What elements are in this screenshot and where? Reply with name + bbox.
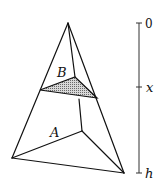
base-edge-left-back: [12, 131, 82, 158]
pyramid-edges: [12, 23, 124, 173]
base-edge-back-right: [82, 131, 124, 173]
scale-label-x: x: [146, 80, 154, 95]
edge-apex-right: [68, 23, 124, 173]
edge-back-lower: [79, 99, 82, 131]
cross-section-b: [40, 77, 97, 98]
label-a: A: [49, 125, 59, 140]
label-b: B: [56, 65, 67, 80]
base-edge-front: [12, 158, 124, 173]
pyramid-diagram: B A 0 x h: [0, 0, 162, 187]
scale-label-0: 0: [145, 17, 153, 31]
scale-label-h: h: [145, 166, 153, 181]
height-scale: [136, 23, 142, 173]
